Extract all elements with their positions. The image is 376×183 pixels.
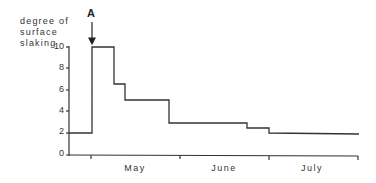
x-axis [66, 155, 358, 156]
annotation-arrow [89, 22, 95, 44]
data-series-step-line [69, 47, 359, 134]
chart-plot [0, 0, 376, 183]
axes [66, 46, 358, 160]
